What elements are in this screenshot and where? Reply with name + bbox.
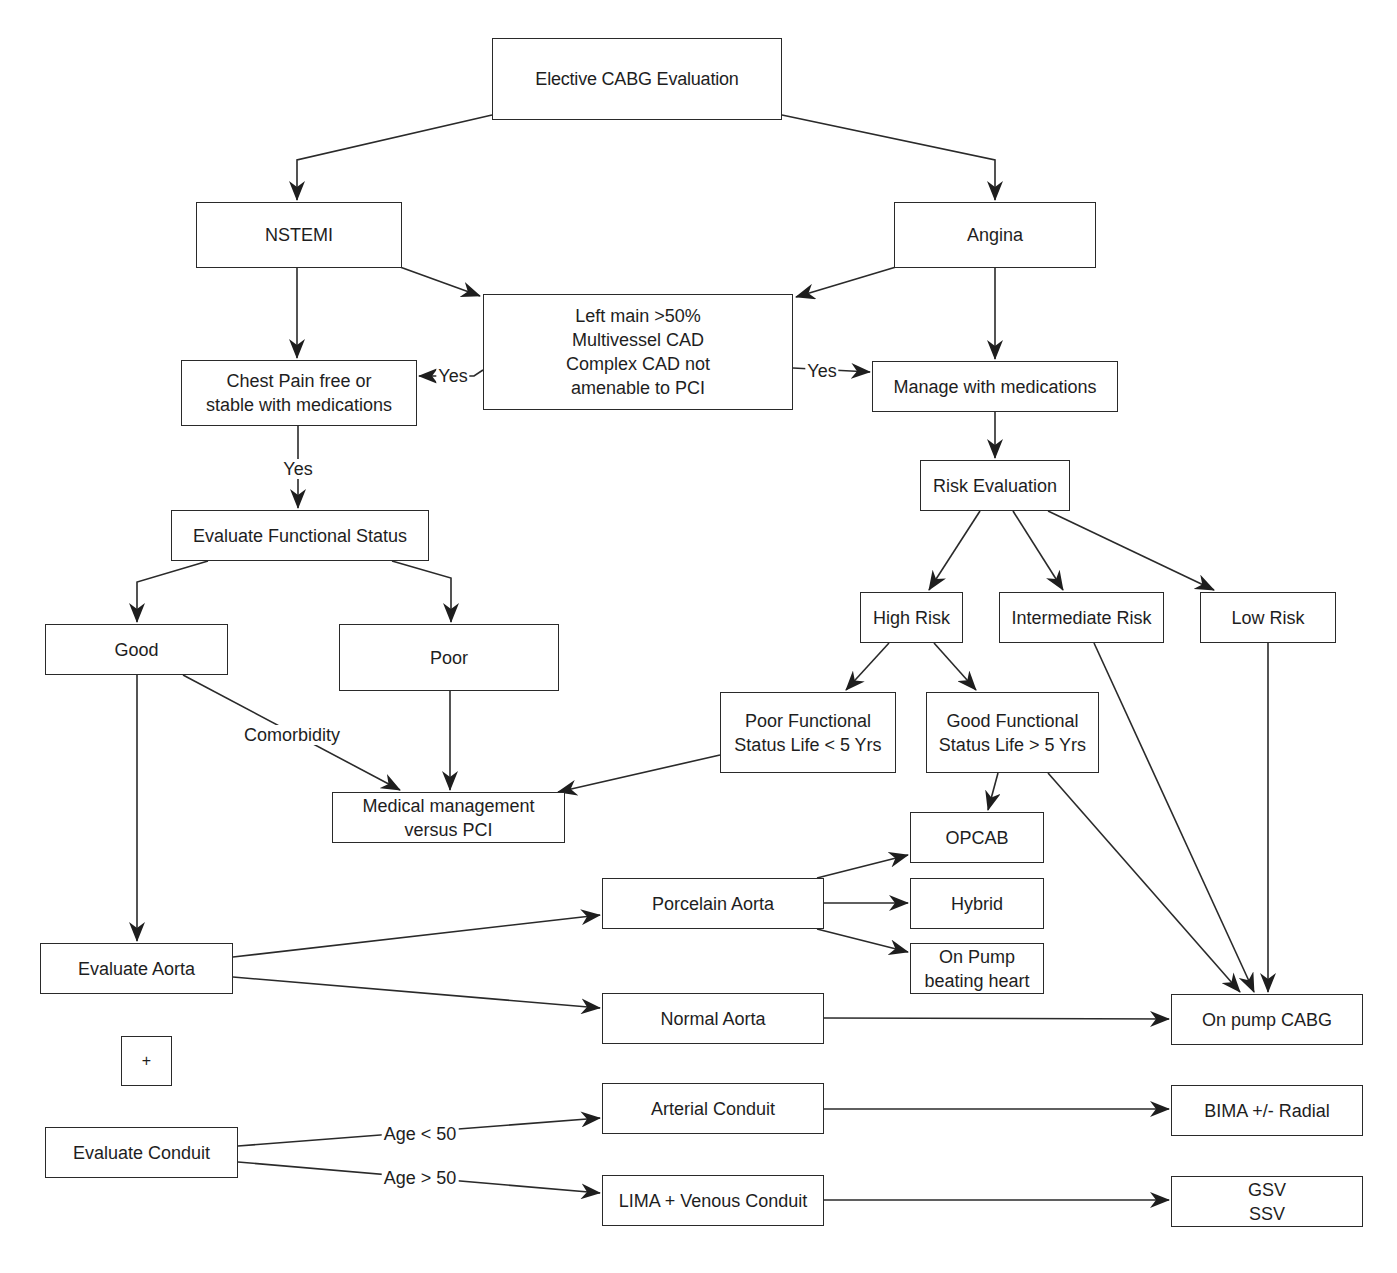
node-label: Intermediate Risk (1011, 606, 1151, 630)
connector-evalfunc-to-poor (392, 561, 451, 622)
node-label: Risk Evaluation (933, 474, 1057, 498)
node-label: Poor (430, 646, 468, 670)
node-label: Arterial Conduit (651, 1097, 775, 1121)
node-label: BIMA +/- Radial (1204, 1099, 1330, 1123)
connector-evalaorta-to-normalaorta (233, 977, 600, 1008)
connector-highrisk-to-poorfunc (846, 643, 889, 690)
node-evalfunc: Evaluate Functional Status (171, 510, 429, 561)
edge-label: Yes (281, 459, 314, 479)
node-onpumpcabg: On pump CABG (1171, 994, 1363, 1045)
node-opcab: OPCAB (910, 812, 1044, 863)
node-label: Angina (967, 223, 1023, 247)
connector-riskeval-to-highrisk (929, 511, 980, 590)
node-label: Normal Aorta (660, 1007, 765, 1031)
node-highrisk: High Risk (860, 592, 963, 643)
node-label: Poor Functional Status Life < 5 Yrs (734, 709, 881, 757)
node-label: Chest Pain free or stable with medicatio… (206, 369, 392, 417)
flowchart-canvas: Elective CABG EvaluationNSTEMIAnginaLeft… (0, 0, 1397, 1273)
node-label: Good (114, 638, 158, 662)
node-lima: LIMA + Venous Conduit (602, 1175, 824, 1226)
node-label: Evaluate Aorta (78, 957, 195, 981)
node-normalaorta: Normal Aorta (602, 993, 824, 1044)
node-label: Elective CABG Evaluation (535, 67, 738, 91)
connector-normalaorta-to-onpumpcabg (824, 1018, 1169, 1019)
node-gsvssv: GSV SSV (1171, 1176, 1363, 1227)
connector-interrisk-to-onpumpcabg (1094, 643, 1254, 992)
node-good: Good (45, 624, 228, 675)
node-poor: Poor (339, 624, 559, 691)
connector-nstemi-to-criteria (400, 267, 480, 296)
node-label: GSV SSV (1248, 1178, 1286, 1226)
node-label: + (142, 1049, 151, 1073)
node-evalaorta: Evaluate Aorta (40, 943, 233, 994)
node-label: High Risk (873, 606, 950, 630)
node-medmgmt: Medical management versus PCI (332, 792, 565, 843)
node-managemed: Manage with medications (872, 361, 1118, 412)
node-chestpain: Chest Pain free or stable with medicatio… (181, 360, 417, 426)
node-plus: + (121, 1036, 172, 1086)
edge-label: Age > 50 (382, 1168, 459, 1188)
connector-goodfunc-to-onpumpcabg (1048, 773, 1240, 992)
edge-label: Yes (436, 366, 469, 386)
node-onpumpbh: On Pump beating heart (910, 943, 1044, 994)
node-label: Evaluate Functional Status (193, 524, 407, 548)
node-evalconduit: Evaluate Conduit (45, 1127, 238, 1178)
node-label: Evaluate Conduit (73, 1141, 210, 1165)
connector-root-to-angina (782, 115, 995, 200)
connector-goodfunc-to-opcab (988, 773, 998, 810)
connector-evalfunc-to-good (137, 561, 208, 622)
connector-poorfunc-to-medmgmt (558, 755, 720, 792)
node-label: Manage with medications (893, 375, 1096, 399)
node-hybrid: Hybrid (910, 878, 1044, 929)
node-label: Low Risk (1231, 606, 1304, 630)
node-riskeval: Risk Evaluation (920, 460, 1070, 511)
edge-label: Comorbidity (242, 725, 342, 745)
connector-evalaorta-to-porcelain (233, 915, 600, 957)
node-bima: BIMA +/- Radial (1171, 1085, 1363, 1136)
node-label: Hybrid (951, 892, 1003, 916)
node-angina: Angina (894, 202, 1096, 268)
node-criteria: Left main >50% Multivessel CAD Complex C… (483, 294, 793, 410)
connector-riskeval-to-lowrisk (1048, 511, 1214, 590)
node-label: NSTEMI (265, 223, 333, 247)
connector-angina-to-criteria (796, 267, 896, 297)
edge-label: Yes (805, 361, 838, 381)
node-porcelain: Porcelain Aorta (602, 878, 824, 929)
node-label: Medical management versus PCI (362, 794, 534, 842)
node-nstemi: NSTEMI (196, 202, 402, 268)
connector-porcelain-to-onpumpbh (817, 929, 908, 952)
node-root: Elective CABG Evaluation (492, 38, 782, 120)
connector-root-to-nstemi (297, 115, 492, 200)
node-goodfunc: Good Functional Status Life > 5 Yrs (926, 692, 1099, 773)
connector-highrisk-to-goodfunc (934, 643, 976, 690)
node-label: LIMA + Venous Conduit (619, 1189, 808, 1213)
node-label: Porcelain Aorta (652, 892, 774, 916)
node-label: On Pump beating heart (924, 945, 1029, 993)
node-label: Good Functional Status Life > 5 Yrs (939, 709, 1086, 757)
connector-riskeval-to-interrisk (1013, 511, 1063, 590)
connector-porcelain-to-opcab (817, 855, 908, 878)
node-label: Left main >50% Multivessel CAD Complex C… (566, 304, 710, 400)
node-poorfunc: Poor Functional Status Life < 5 Yrs (720, 692, 896, 773)
node-arterial: Arterial Conduit (602, 1083, 824, 1134)
node-label: OPCAB (945, 826, 1008, 850)
edge-label: Age < 50 (382, 1124, 459, 1144)
node-label: On pump CABG (1202, 1008, 1332, 1032)
node-lowrisk: Low Risk (1200, 592, 1336, 643)
node-interrisk: Intermediate Risk (999, 592, 1164, 643)
